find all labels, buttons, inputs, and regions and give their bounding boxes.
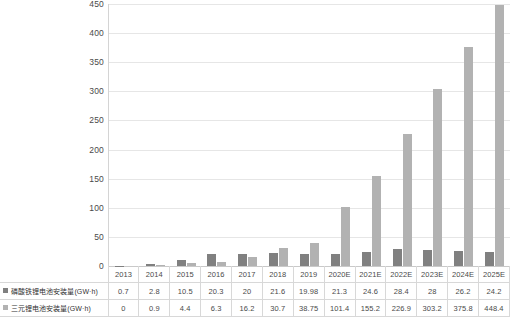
data-cell: 10.5 [170, 283, 201, 300]
data-cell: 20.3 [201, 283, 232, 300]
data-cell: 24.2 [479, 283, 510, 300]
bar-group [109, 4, 140, 266]
bar [433, 89, 442, 266]
category-header-cell: 2019 [293, 266, 324, 283]
legend-swatch-icon [3, 288, 8, 293]
bar [279, 248, 288, 266]
series-name-text: 三元锂电池安装量(GW·h) [11, 305, 91, 312]
bar-group [479, 4, 510, 266]
y-axis-tick-label: 300 [89, 86, 104, 96]
bar [310, 243, 319, 266]
bar [248, 257, 257, 266]
y-axis-tick-label: 50 [94, 232, 104, 242]
y-axis-tick-label: 250 [89, 115, 104, 125]
table-corner-cell [0, 266, 108, 283]
bar [464, 47, 473, 266]
data-cell: 226.9 [386, 300, 417, 317]
data-cell: 155.2 [355, 300, 386, 317]
y-axis-tick-label: 450 [89, 0, 104, 9]
bar-group [171, 4, 202, 266]
category-header-cell: 2016 [201, 266, 232, 283]
category-header-cell: 2021E [355, 266, 386, 283]
data-cell: 0.9 [139, 300, 170, 317]
data-cell: 19.98 [293, 283, 324, 300]
bar [485, 252, 494, 266]
data-cell: 0.7 [108, 283, 139, 300]
table-header-row: 20132014201520162017201820192020E2021E20… [0, 266, 510, 283]
category-header-cell: 2013 [108, 266, 139, 283]
legend-swatch-icon [3, 305, 8, 310]
data-cell: 21.3 [324, 283, 355, 300]
y-axis-tick-label: 400 [89, 28, 104, 38]
data-cell: 20 [232, 283, 263, 300]
plot-region: 050100150200250300350400450 [0, 4, 510, 266]
data-cell: 16.2 [232, 300, 263, 317]
data-table: 20132014201520162017201820192020E2021E20… [0, 266, 510, 317]
data-cell: 6.3 [201, 300, 232, 317]
bar [207, 254, 216, 266]
category-header-cell: 2017 [232, 266, 263, 283]
data-cell: 26.2 [448, 283, 479, 300]
bar-group [294, 4, 325, 266]
data-cell: 30.7 [262, 300, 293, 317]
category-header-cell: 2015 [170, 266, 201, 283]
bar-group [202, 4, 233, 266]
y-axis-tick-label: 100 [89, 203, 104, 213]
y-axis-tick-label: 150 [89, 174, 104, 184]
category-header-cell: 2025E [479, 266, 510, 283]
series-legend-label: 磷酸铁锂电池安装量(GW·h) [0, 283, 108, 300]
bar-group [387, 4, 418, 266]
y-axis-tick-label: 200 [89, 145, 104, 155]
table-row: 三元锂电池安装量(GW·h)00.94.46.316.230.738.75101… [0, 300, 510, 317]
y-axis-tick-label: 350 [89, 57, 104, 67]
bar [300, 254, 309, 266]
data-cell: 448.4 [479, 300, 510, 317]
bar-group [448, 4, 479, 266]
bar [362, 252, 371, 266]
category-header-cell: 2024E [448, 266, 479, 283]
bar [331, 254, 340, 266]
bar [454, 251, 463, 266]
bar-group [356, 4, 387, 266]
bar [423, 250, 432, 266]
category-header-cell: 2020E [324, 266, 355, 283]
data-table-region: 20132014201520162017201820192020E2021E20… [0, 266, 510, 316]
bar [403, 134, 412, 266]
plot-area [108, 4, 510, 266]
data-cell: 2.8 [139, 283, 170, 300]
table-row: 磷酸铁锂电池安装量(GW·h)0.72.810.520.32021.619.98… [0, 283, 510, 300]
data-cell: 28 [417, 283, 448, 300]
data-table-body: 20132014201520162017201820192020E2021E20… [0, 266, 510, 317]
data-cell: 24.6 [355, 283, 386, 300]
bar [393, 249, 402, 266]
bar [372, 176, 381, 266]
data-cell: 0 [108, 300, 139, 317]
bars-layer [109, 4, 510, 266]
bar-chart-with-data-table: 050100150200250300350400450 201320142015… [0, 0, 510, 322]
data-cell: 38.75 [293, 300, 324, 317]
category-header-cell: 2018 [262, 266, 293, 283]
bar-group [417, 4, 448, 266]
category-header-cell: 2022E [386, 266, 417, 283]
category-header-cell: 2023E [417, 266, 448, 283]
series-name-text: 磷酸铁锂电池安装量(GW·h) [11, 288, 98, 295]
bar-group [232, 4, 263, 266]
bar-group [140, 4, 171, 266]
bar [269, 253, 278, 266]
bar [495, 5, 504, 266]
bar-group [325, 4, 356, 266]
data-cell: 303.2 [417, 300, 448, 317]
data-cell: 21.6 [262, 283, 293, 300]
y-axis: 050100150200250300350400450 [0, 4, 108, 266]
category-header-cell: 2014 [139, 266, 170, 283]
bar-group [263, 4, 294, 266]
bar [238, 254, 247, 266]
data-cell: 4.4 [170, 300, 201, 317]
bar [341, 207, 350, 266]
data-cell: 375.8 [448, 300, 479, 317]
data-cell: 28.4 [386, 283, 417, 300]
series-legend-label: 三元锂电池安装量(GW·h) [0, 300, 108, 317]
data-cell: 101.4 [324, 300, 355, 317]
